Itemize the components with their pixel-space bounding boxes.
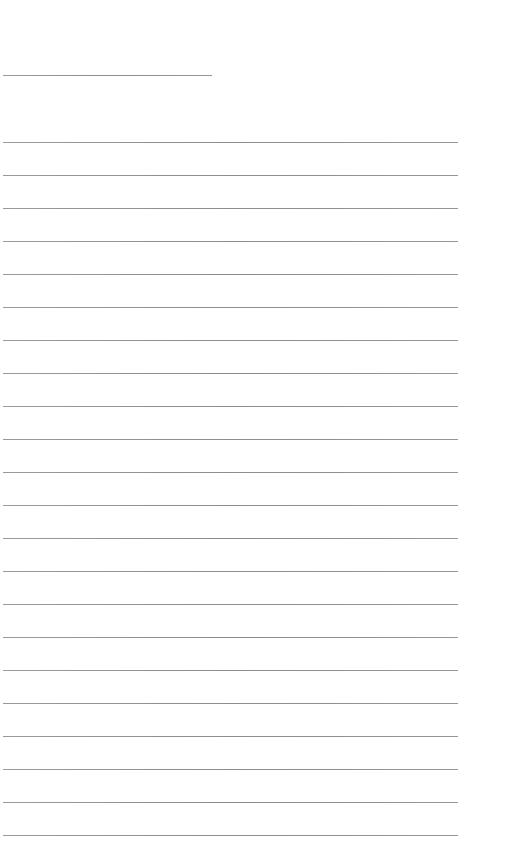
ruled-line xyxy=(3,373,458,374)
ruled-line xyxy=(3,307,458,308)
ruled-line xyxy=(3,142,458,143)
ruled-line xyxy=(3,274,458,275)
ruled-line xyxy=(3,208,458,209)
ruled-line xyxy=(3,175,458,176)
header-short-rule xyxy=(3,75,212,76)
ruled-line xyxy=(3,439,458,440)
ruled-line xyxy=(3,538,458,539)
ruled-line xyxy=(3,604,458,605)
ruled-line xyxy=(3,571,458,572)
ruled-line xyxy=(3,241,458,242)
ruled-line xyxy=(3,637,458,638)
ruled-line xyxy=(3,736,458,737)
ruled-line xyxy=(3,340,458,341)
ruled-line xyxy=(3,670,458,671)
ruled-line xyxy=(3,703,458,704)
ruled-line xyxy=(3,835,458,836)
ruled-line xyxy=(3,472,458,473)
ruled-line xyxy=(3,802,458,803)
ruled-line xyxy=(3,769,458,770)
ruled-line xyxy=(3,505,458,506)
ruled-line xyxy=(3,406,458,407)
lined-paper-page xyxy=(0,0,508,863)
